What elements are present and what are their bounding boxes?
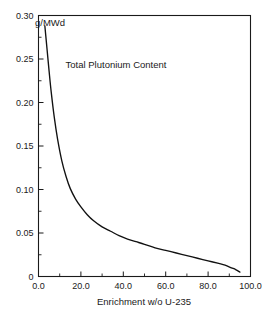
- x-tick-label: 0.0: [32, 281, 45, 291]
- y-tick-label: 0.25: [16, 54, 34, 64]
- x-axis-title: Enrichment w/o U-235: [97, 296, 191, 307]
- y-axis-major-ticks: [39, 16, 44, 277]
- y-tick-label: 0.10: [16, 185, 34, 195]
- y-tick-label: 0.30: [16, 11, 34, 21]
- plot-frame-rect: [39, 16, 251, 277]
- x-tick-label: 20.0: [72, 281, 90, 291]
- x-tick-label: 40.0: [115, 281, 133, 291]
- x-tick-label: 100.0: [239, 281, 262, 291]
- y-tick-label: 0.15: [16, 141, 34, 151]
- plutonium-content-chart: 00.050.100.150.200.250.30 0.020.040.060.…: [0, 0, 268, 314]
- chart-annotations: g/MWdTotal Plutonium Content: [35, 17, 167, 70]
- y-tick-label: 0.05: [16, 228, 34, 238]
- units-label: g/MWd: [35, 17, 65, 28]
- series-label: Total Plutonium Content: [66, 59, 167, 70]
- y-tick-label: 0.20: [16, 98, 34, 108]
- plot-frame: [39, 16, 251, 277]
- x-axis-tick-labels: 0.020.040.060.080.0100.0: [32, 281, 262, 291]
- x-tick-label: 80.0: [199, 281, 217, 291]
- x-tick-label: 60.0: [157, 281, 175, 291]
- y-axis-tick-labels: 00.050.100.150.200.250.30: [16, 11, 34, 282]
- chart-canvas: 00.050.100.150.200.250.30 0.020.040.060.…: [0, 0, 268, 314]
